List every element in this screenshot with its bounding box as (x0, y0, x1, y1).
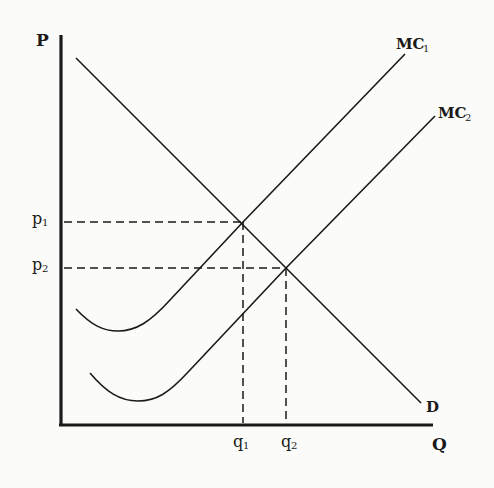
p2-label: p 2 (32, 255, 48, 274)
demand-label: D (426, 398, 439, 416)
svg-text:1: 1 (42, 217, 48, 228)
svg-text:MC: MC (438, 104, 467, 122)
svg-text:2: 2 (42, 263, 48, 274)
svg-text:p: p (32, 255, 42, 274)
svg-text:1: 1 (243, 440, 249, 451)
q1-label: q 1 (233, 432, 249, 451)
quantity-axis-label: Q (432, 434, 447, 454)
svg-text:2: 2 (291, 440, 297, 451)
svg-text:1: 1 (423, 43, 429, 54)
supply-demand-diagram: P Q D MC 1 MC 2 p 1 p 2 q 1 q 2 (0, 0, 494, 488)
mc2-label: MC 2 (438, 104, 471, 123)
mc1-label: MC 1 (396, 35, 429, 54)
svg-text:q: q (281, 432, 291, 451)
svg-text:2: 2 (465, 112, 471, 123)
price-axis-label: P (36, 30, 49, 50)
svg-text:MC: MC (396, 35, 425, 53)
mc1-curve (76, 54, 405, 331)
q2-label: q 2 (281, 432, 297, 451)
mc2-curve (90, 116, 435, 401)
svg-text:p: p (32, 209, 42, 228)
demand-curve (76, 58, 421, 403)
svg-text:q: q (233, 432, 243, 451)
p1-label: p 1 (32, 209, 48, 228)
